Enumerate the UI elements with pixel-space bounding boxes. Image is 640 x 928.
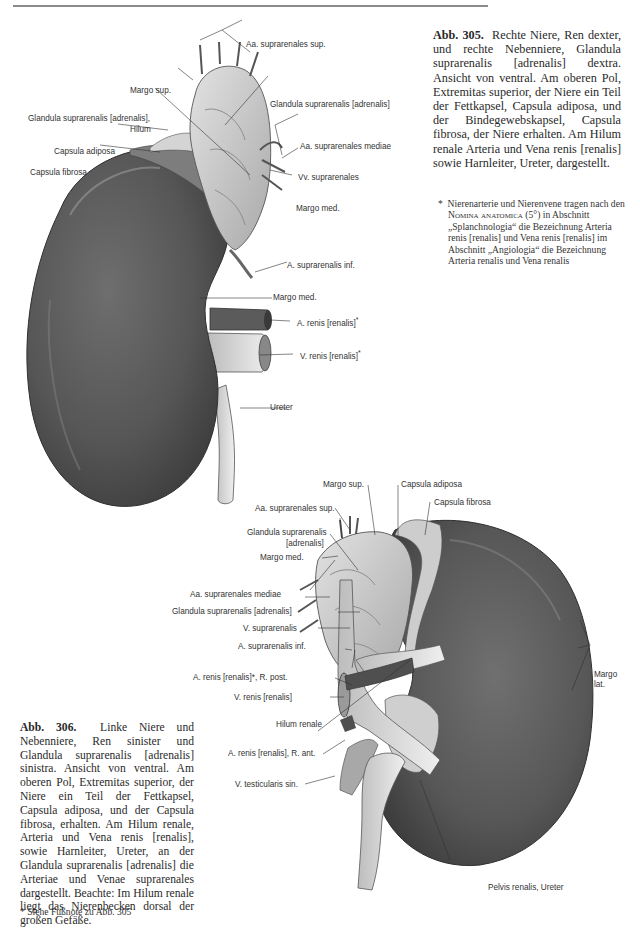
label-margo-sup: Margo sup.	[130, 86, 171, 96]
label-glandula-306-2: [adrenalis]	[286, 539, 324, 549]
label-margo-med-2: Margo med.	[273, 293, 317, 303]
label-pelvis-ureter-306: Pelvis renalis, Ureter	[488, 883, 564, 893]
fig306-caption-text: Linke Niere und Nebenniere, Ren sinister…	[20, 721, 194, 927]
label-glandula-suprarenalis: Glandula suprarenalis [adrenalis]	[270, 100, 390, 110]
label-vv-suprarenales: Vv. suprarenales	[298, 173, 359, 183]
fig305-caption-label: Abb. 305.	[433, 28, 484, 42]
fig306-caption: Abb. 306. Linke Niere und Nebenniere, Re…	[20, 721, 194, 928]
fig305-caption-text: Rechte Niere, Ren dexter, und rechte Neb…	[433, 28, 621, 170]
label-a-renis: A. renis [renalis]*	[297, 315, 358, 329]
fig306-footnote: * Siehe Fußnote zu Abb. 305	[20, 906, 200, 917]
label-v-renis: V. renis [renalis]*	[300, 348, 361, 362]
label-a-suprarenalis-inf: A. suprarenalis inf.	[287, 261, 355, 271]
fig305-drawing	[27, 42, 285, 506]
label-a-suprarenalis-inf-306: A. suprarenalis inf.	[238, 642, 306, 652]
label-v-testicularis-306: V. testicularis sin.	[235, 780, 298, 790]
label-v-suprarenalis-306: V. suprarenalis	[243, 624, 297, 634]
label-a-renis-post-306: A. renis [renalis]*, R. post.	[193, 673, 288, 683]
fig306-drawing	[298, 516, 593, 890]
label-aa-suprarenales-mediae-306: Aa. suprarenales mediae	[190, 590, 281, 600]
label-aa-suprarenales-sup: Aa. suprarenales sup.	[246, 40, 326, 50]
fig305-footnote: * Nierenarterie und Nierenvene tragen na…	[436, 198, 628, 266]
label-margo-lat-1: Margo	[594, 670, 617, 680]
label-margo-sup-306: Margo sup.	[323, 480, 364, 490]
label-glandula-hilum-2: Hilum	[130, 125, 151, 135]
label-a-renis-ant-306: A. renis [renalis], R. ant.	[228, 749, 315, 759]
label-hilum-renale-306: Hilum renale	[276, 720, 322, 730]
label-margo-lat-2: lat.	[594, 680, 605, 690]
label-glandula-hilum-1: Glandula suprarenalis [adrenalis],	[28, 114, 150, 124]
label-v-renis-306: V. renis [renalis]	[234, 693, 292, 703]
fig305-caption: Abb. 305. Rechte Niere, Ren dexter, und …	[433, 28, 621, 170]
label-margo-med-1: Margo med.	[296, 204, 340, 214]
label-capsula-fibrosa: Capsula fibrosa	[30, 168, 87, 178]
label-glandula-full-306: Glandula suprarenalis [adrenalis]	[172, 607, 292, 617]
label-glandula-306-1: Glandula suprarenalis	[247, 528, 327, 538]
label-margo-med-306: Margo med.	[260, 553, 304, 563]
fig306-caption-label: Abb. 306.	[20, 721, 76, 734]
label-capsula-adiposa-306: Capsula adiposa	[401, 480, 462, 490]
label-aa-suprarenales-mediae: Aa. suprarenales mediae	[300, 142, 391, 152]
label-capsula-adiposa: Capsula adiposa	[54, 147, 115, 157]
label-ureter: Ureter	[270, 403, 293, 413]
label-capsula-fibrosa-306: Capsula fibrosa	[434, 498, 491, 508]
label-aa-suprarenales-sup-306: Aa. suprarenales sup.	[255, 504, 335, 514]
